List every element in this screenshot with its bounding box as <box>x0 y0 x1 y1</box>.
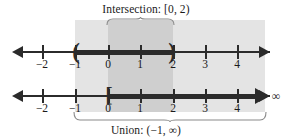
top-tick-label-4: 4 <box>234 58 240 70</box>
bottom-tick-label-neg2: −2 <box>36 102 48 114</box>
top-tick-3 <box>205 45 207 59</box>
bottom-tick-neg2 <box>42 89 44 103</box>
union-brace-icon <box>73 112 267 123</box>
intersection-brace-icon <box>106 17 175 26</box>
top-tick-label-neg2: −2 <box>36 58 48 70</box>
bottom-segment-arrowhead-icon <box>255 88 269 104</box>
bottom-left-arrow-icon <box>12 90 23 102</box>
top-tick-label-neg1: −1 <box>69 58 81 70</box>
top-tick-label-2: 2 <box>170 58 176 70</box>
infinity-symbol: ∞ <box>272 89 281 104</box>
bottom-tick-neg1 <box>75 89 77 103</box>
bottom-interval-segment <box>108 94 260 99</box>
top-tick-neg2 <box>42 45 44 59</box>
top-right-arrow-icon <box>259 46 270 58</box>
top-tick-label-0: 0 <box>105 58 111 70</box>
intersection-caption: Intersection: [0, 2) <box>0 3 292 15</box>
bottom-number-line: [ ∞ −2 −1 0 1 2 3 4 <box>0 82 292 116</box>
top-tick-label-1: 1 <box>137 58 143 70</box>
top-tick-label-3: 3 <box>202 58 208 70</box>
union-caption: Union: (−1, ∞) <box>0 124 292 136</box>
top-number-line: ( ) −2 −1 0 1 2 3 4 <box>0 38 292 72</box>
top-interval-segment <box>75 50 173 55</box>
number-line-figure: Intersection: [0, 2) ( ) −2 −1 0 1 2 3 4 <box>0 0 292 140</box>
top-tick-4 <box>237 45 239 59</box>
top-left-arrow-icon <box>12 46 23 58</box>
